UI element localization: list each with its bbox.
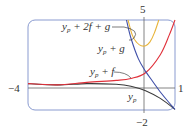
tick-label-x-min: −4 <box>8 83 20 94</box>
legend-label-yp-2f-g: yp + 2f + g <box>62 21 110 34</box>
tick-label-x-max: 1 <box>178 83 184 94</box>
arrow-yp-f <box>114 72 131 78</box>
tick-label-y-min: −2 <box>136 117 148 128</box>
tick-label-y-max: 5 <box>140 4 146 15</box>
legend-label-yp-g: yp + g <box>98 43 125 56</box>
legend-label-yp-f: yp + f <box>90 66 114 79</box>
legend-label-yp: yp <box>128 91 136 104</box>
curve-y-p <box>28 84 175 110</box>
